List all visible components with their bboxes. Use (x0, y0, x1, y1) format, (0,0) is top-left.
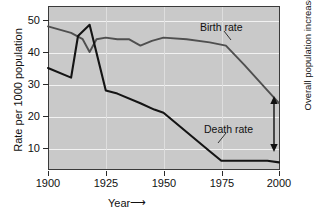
birth-rate-label: Birth rate (200, 21, 243, 33)
annotation-line-1: Overall (302, 80, 313, 110)
death-rate-line (48, 25, 279, 163)
death-rate-label: Death rate (204, 123, 253, 135)
population-increase-arrow-head-down (270, 144, 277, 152)
birth-rate-line (48, 26, 279, 103)
annotation-line-3: increase (302, 0, 313, 31)
annotation-line-2: population (302, 34, 313, 78)
overall-population-increase-annotation: Overall population increase (302, 15, 313, 111)
chart-figure: 50 40 30 20 10 Rate per 1000 population … (0, 0, 330, 222)
series-lines (0, 0, 330, 222)
